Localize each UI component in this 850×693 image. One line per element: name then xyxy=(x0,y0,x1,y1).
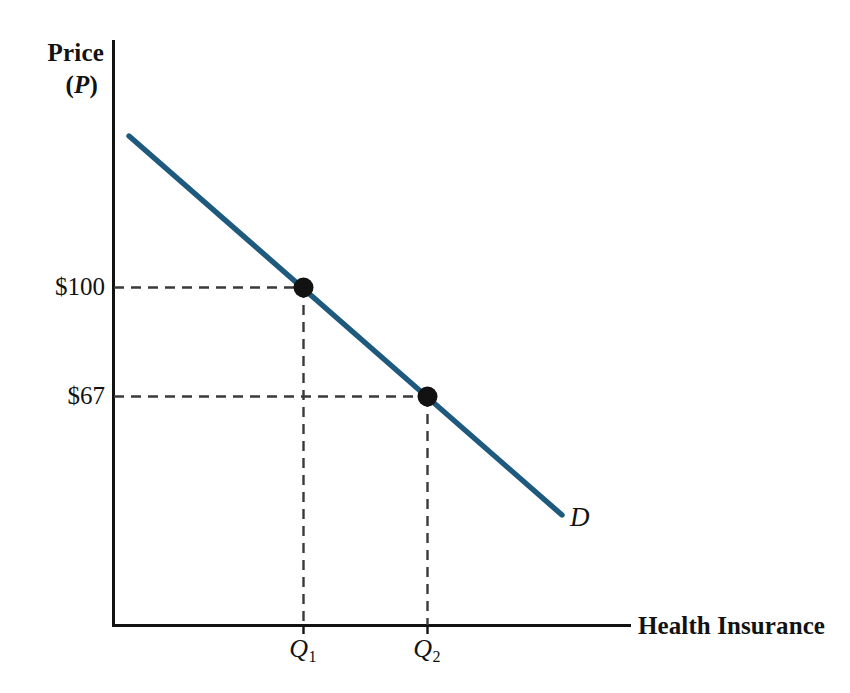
x-tick-label-q1-subscript: 1 xyxy=(309,648,317,665)
y-axis-title-line2: (P) xyxy=(0,72,98,97)
y-tick-label-100: $100 xyxy=(5,274,105,299)
y-axis-title-paren-open: ( xyxy=(65,71,74,98)
data-point-marker-q1 xyxy=(294,278,314,298)
x-tick-label-q1-base: Q xyxy=(289,634,308,663)
x-tick-label-q2-base: Q xyxy=(413,634,432,663)
y-axis-title-line1: Price xyxy=(47,39,104,66)
data-point-marker-q2 xyxy=(418,387,438,407)
demand-curve-line xyxy=(129,136,562,515)
x-axis-title: Health Insurance xyxy=(638,613,825,638)
chart-canvas xyxy=(0,0,850,693)
demand-curve-figure: Price (P) $100 $67 Q1 Q2 Health Insuranc… xyxy=(0,0,850,693)
x-tick-label-q2-subscript: 2 xyxy=(433,648,441,665)
y-tick-label-67: $67 xyxy=(5,383,105,408)
x-tick-label-q2: Q2 xyxy=(413,636,440,665)
y-axis-title-symbol: P xyxy=(74,71,89,98)
x-tick-label-q1: Q1 xyxy=(289,636,316,665)
y-axis-title: Price (P) xyxy=(0,40,104,97)
y-axis-title-paren-close: ) xyxy=(89,71,98,98)
demand-curve-label: D xyxy=(570,504,590,531)
